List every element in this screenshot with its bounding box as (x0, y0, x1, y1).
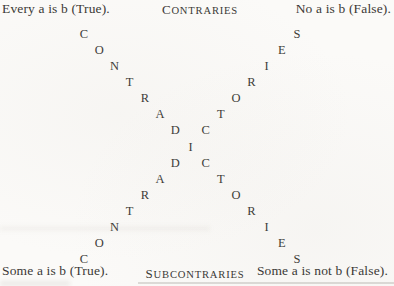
contradictories-letter-descending: N (110, 60, 119, 72)
contradictories-letter-ascending: O (95, 237, 104, 249)
contradictories-letter-ascending: R (141, 189, 149, 201)
contradictories-letter-descending: C (202, 157, 210, 169)
contradictories-letter-ascending: D (171, 157, 180, 169)
proposition-particular-affirmative: Some a is b (True). (2, 264, 108, 278)
scan-artifact-line (138, 282, 394, 284)
contradictories-letter-descending: O (232, 189, 241, 201)
contradictories-letter-ascending: A (156, 173, 165, 185)
contradictories-letter-descending: R (247, 205, 255, 217)
contradictories-letter-descending: E (278, 237, 286, 249)
subcontraries-label-initial: S (146, 266, 154, 281)
contradictories-letter-descending: D (171, 124, 180, 136)
contradictories-letter-ascending: E (278, 44, 286, 56)
contradictories-letter-descending: C (80, 28, 88, 40)
contradictories-letter-descending: O (95, 44, 104, 56)
contradictories-letter-descending: I (188, 141, 192, 153)
contradictories-letter-ascending: O (232, 92, 241, 104)
contradictories-letter-ascending: R (247, 76, 255, 88)
contradictories-letter-descending: T (126, 76, 134, 88)
contradictories-letter-descending: A (156, 108, 165, 120)
square-of-opposition-diagram: Every a is b (True). CONTRARIES No a is … (0, 0, 394, 286)
contradictories-letter-descending: R (141, 92, 149, 104)
contradictories-letter-ascending: T (217, 108, 225, 120)
scan-artifact-smudge (0, 226, 210, 231)
contradictories-letter-descending: T (217, 173, 225, 185)
contradictories-diagonals: CCOONNTTRRAADDICCTTOORRIIEESS (0, 0, 394, 286)
subcontraries-label: SUBCONTRARIES (146, 266, 245, 281)
contradictories-letter-ascending: I (265, 60, 269, 72)
proposition-particular-negative: Some a is not b (False). (257, 264, 388, 278)
contradictories-letter-descending: I (265, 221, 269, 233)
subcontraries-label-rest: UBCONTRARIES (154, 269, 245, 280)
scan-artifact-smudge (0, 281, 70, 286)
contradictories-letter-ascending: T (126, 205, 134, 217)
contradictories-letter-ascending: S (294, 28, 301, 40)
contradictories-letter-ascending: C (202, 124, 210, 136)
